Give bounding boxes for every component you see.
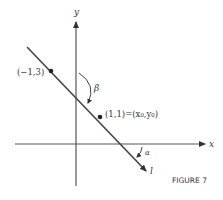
point-label-minus1-3: (−1,3) [17, 67, 44, 77]
beta-arc [79, 73, 91, 103]
line-label: l [150, 166, 153, 176]
x-axis-label: x [209, 139, 214, 149]
beta-label: β [93, 83, 99, 93]
point-minus1-3 [49, 69, 54, 74]
y-axis-label: y [73, 7, 80, 17]
point-label-1-1: (1,1)=(x₀,y₀) [105, 109, 158, 119]
figure-canvas: y x (−1,3) (1,1)=(x₀,y₀) β α l FIGURE 7 [0, 0, 223, 200]
alpha-arc [137, 147, 142, 157]
figure-caption: FIGURE 7 [172, 176, 207, 185]
alpha-label: α [145, 149, 150, 157]
point-1-1 [98, 115, 103, 120]
